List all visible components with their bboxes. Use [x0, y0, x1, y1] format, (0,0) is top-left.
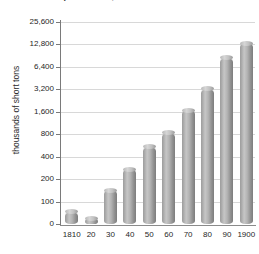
y-tick-mark [56, 112, 61, 113]
chart-container: U.S. coal production, 1810-1900 thousand… [0, 0, 259, 254]
x-tick-label: 1900 [230, 230, 259, 239]
y-tick-mark [56, 89, 61, 90]
y-tick-label: 3,200 [4, 84, 54, 93]
y-tick-mark [56, 157, 61, 158]
y-tick-label: 400 [4, 152, 54, 161]
y-tick-mark [56, 22, 61, 23]
y-tick-label: 100 [4, 197, 54, 206]
y-axis-tick-labels: 01002004008001,6003,2006,40012,80025,600 [0, 0, 259, 254]
y-tick-label: 6,400 [4, 62, 54, 71]
y-tick-label: 800 [4, 129, 54, 138]
y-tick-mark [56, 67, 61, 68]
y-tick-label: 0 [4, 219, 54, 228]
y-tick-label: 200 [4, 174, 54, 183]
y-tick-mark [56, 44, 61, 45]
y-tick-mark [56, 134, 61, 135]
y-tick-mark [56, 179, 61, 180]
y-tick-label: 1,600 [4, 107, 54, 116]
y-tick-label: 12,800 [4, 39, 54, 48]
y-tick-mark [56, 224, 61, 225]
y-tick-label: 25,600 [4, 17, 54, 26]
y-tick-mark [56, 202, 61, 203]
